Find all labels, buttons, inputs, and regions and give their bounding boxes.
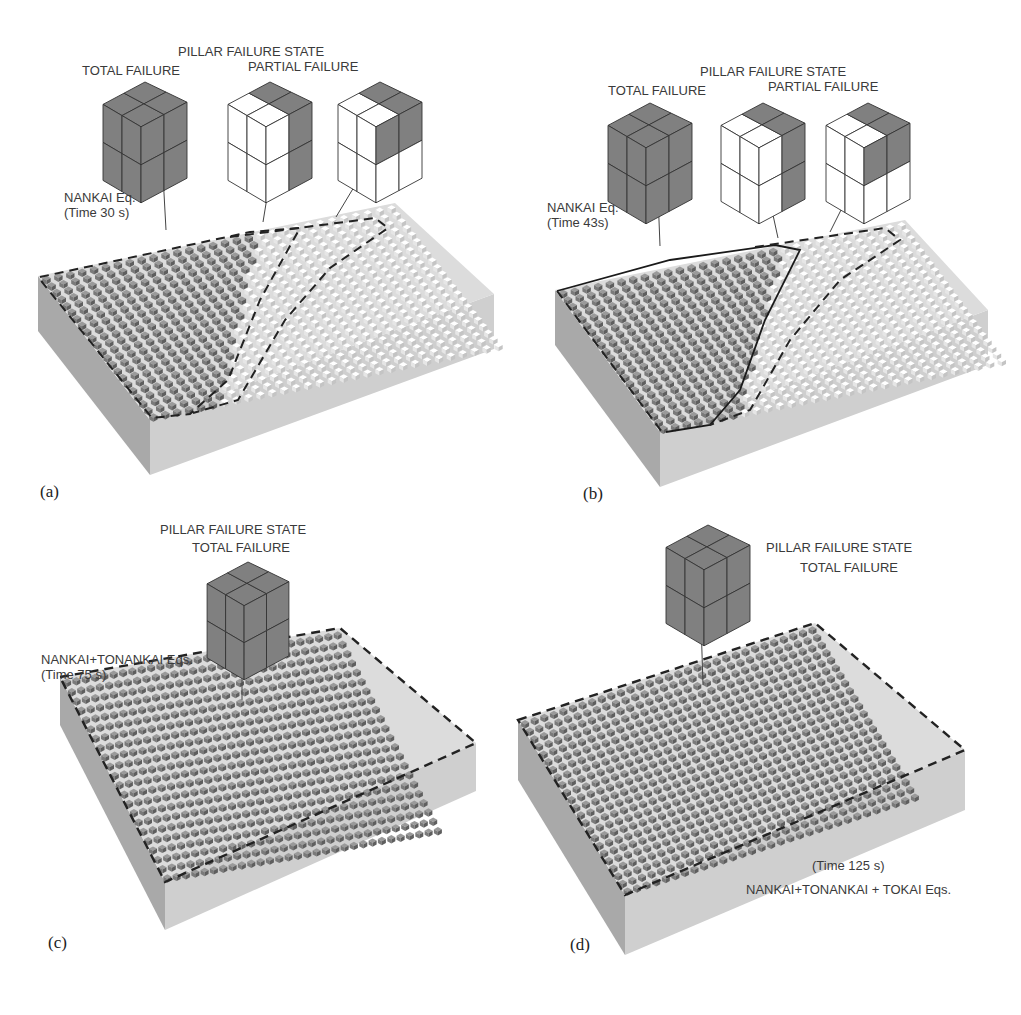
legend-partial-failure: PARTIAL FAILURE — [248, 59, 358, 75]
panel-c: PILLAR FAILURE STATE TOTAL FAILURE NANKA… — [0, 510, 510, 1015]
event-label: NANKAI+TONANKAI Eqs. — [41, 652, 193, 668]
cube-legend-total-icon — [207, 562, 289, 680]
time-label: (Time 43s) — [547, 215, 609, 231]
legend-title: PILLAR FAILURE STATE — [766, 540, 912, 556]
pillar-grid-diagram-a — [0, 0, 510, 500]
time-label: (Time 75 s) — [41, 667, 106, 683]
slab — [60, 628, 476, 930]
cube-legend-partial-half-icon — [228, 82, 312, 203]
legend-title: PILLAR FAILURE STATE — [700, 64, 846, 80]
legend-total-failure: TOTAL FAILURE — [192, 540, 290, 556]
pillar-grid-diagram-c — [0, 510, 510, 1015]
panel-b: PILLAR FAILURE STATE TOTAL FAILURE PARTI… — [510, 0, 1021, 500]
time-label: (Time 30 s) — [64, 205, 129, 221]
legend-total-failure: TOTAL FAILURE — [800, 560, 898, 576]
panel-tag: (b) — [583, 484, 603, 504]
cube-legend-total-icon — [666, 525, 750, 646]
event-label: NANKAI+TONANKAI + TOKAI Eqs. — [746, 882, 951, 898]
panel-tag: (a) — [40, 482, 59, 502]
legend-title: PILLAR FAILURE STATE — [160, 522, 306, 538]
panel-d: PILLAR FAILURE STATE TOTAL FAILURE (Time… — [510, 510, 1021, 1015]
cube-legend-total-icon — [608, 103, 692, 224]
legend-title: PILLAR FAILURE STATE — [178, 44, 324, 60]
legend-total-failure: TOTAL FAILURE — [82, 63, 180, 79]
slab — [518, 623, 965, 955]
legend-total-failure: TOTAL FAILURE — [608, 83, 706, 99]
panel-tag: (c) — [48, 933, 67, 953]
panel-tag: (d) — [570, 935, 590, 955]
slab — [555, 220, 1006, 487]
cube-legend-partial-quarter-icon — [826, 103, 910, 224]
legend-partial-failure: PARTIAL FAILURE — [768, 79, 878, 95]
cube-legend-partial-half-icon — [721, 103, 805, 224]
time-label: (Time 125 s) — [812, 858, 884, 874]
event-label: NANKAI Eq. — [547, 200, 619, 216]
panel-a: PILLAR FAILURE STATE TOTAL FAILURE PARTI… — [0, 0, 510, 500]
cube-legend-partial-quarter-icon — [338, 82, 422, 203]
event-label: NANKAI Eq. — [64, 190, 136, 206]
slab — [38, 203, 503, 475]
cube-legend-total-icon — [103, 82, 187, 203]
